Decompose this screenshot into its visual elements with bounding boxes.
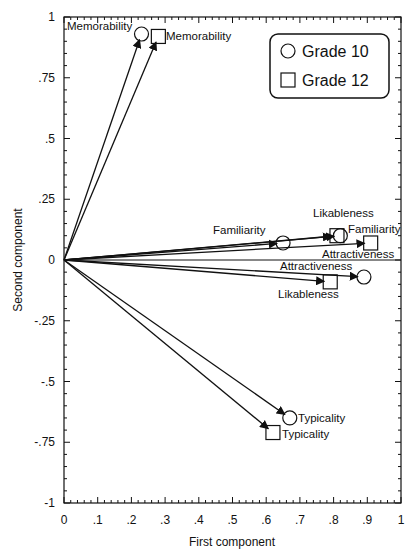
x-tick-label: 0 (61, 513, 68, 527)
legend-label-grade10: Grade 10 (302, 43, 369, 60)
vector-arrow (64, 243, 365, 260)
label-familiarity-g12: Familiarity (348, 223, 401, 235)
y-tick-label: -.75 (34, 435, 55, 449)
label-likableness-g10: Likableness (313, 207, 374, 219)
x-tick-label: .1 (93, 513, 103, 527)
x-tick-label: .5 (227, 513, 237, 527)
circle-marker-icon (135, 27, 149, 41)
circle-marker-icon (357, 270, 371, 284)
y-tick-label: -.5 (41, 375, 55, 389)
biplot-chart: 0.1.2.3.4.5.6.7.8.911.75.5.250-.25-.5-.7… (0, 0, 416, 557)
legend: Grade 10 Grade 12 (270, 34, 389, 98)
x-tick-label: .9 (362, 513, 372, 527)
square-marker-icon (323, 275, 337, 289)
y-tick-label: 1 (48, 10, 55, 24)
label-attractiveness-g10: Attractiveness (280, 260, 352, 272)
vector-arrow (64, 260, 285, 415)
y-tick-label: -.25 (34, 314, 55, 328)
y-tick-label: -1 (44, 496, 55, 510)
square-marker-icon (151, 29, 165, 43)
square-marker-icon (266, 426, 280, 440)
x-tick-label: 1 (398, 513, 405, 527)
legend-label-grade12: Grade 12 (302, 72, 369, 89)
x-tick-label: .2 (126, 513, 136, 527)
square-marker-icon (330, 229, 344, 243)
label-attractiveness-g12: Attractiveness (322, 248, 394, 260)
label-familiarity-g10: Familiarity (213, 224, 266, 236)
vector-arrow (64, 236, 331, 260)
label-memorability-g12: Memorability (166, 30, 231, 42)
x-axis-title: First component (189, 535, 276, 549)
x-tick-label: .6 (261, 513, 271, 527)
x-tick-label: .3 (160, 513, 170, 527)
vector-arrow (64, 42, 156, 260)
circle-marker-icon (283, 411, 297, 425)
label-typicality-g10: Typicality (298, 412, 346, 424)
x-tick-label: .4 (194, 513, 204, 527)
x-tick-label: .8 (329, 513, 339, 527)
y-axis-title: Second component (11, 208, 25, 312)
y-tick-label: 0 (48, 253, 55, 267)
y-tick-label: .5 (45, 132, 55, 146)
y-tick-label: .25 (38, 192, 55, 206)
vector-arrow (64, 260, 268, 429)
circle-marker-icon (333, 229, 347, 243)
label-typicality-g12: Typicality (282, 428, 330, 440)
x-tick-label: .7 (295, 513, 305, 527)
label-memorability-g10: Memorability (67, 20, 132, 32)
vector-arrow (64, 40, 140, 260)
label-likableness-g12: Likableness (278, 288, 339, 300)
y-tick-label: .75 (38, 71, 55, 85)
